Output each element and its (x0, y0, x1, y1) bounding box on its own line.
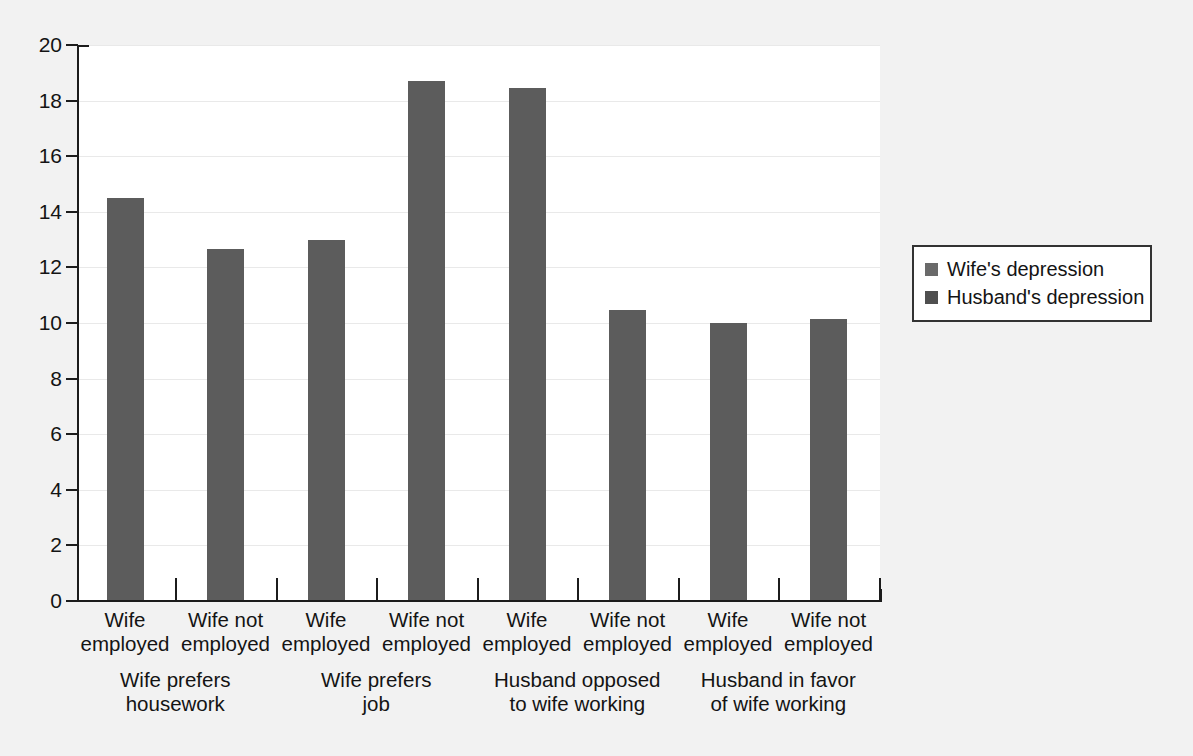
bar (609, 310, 646, 601)
y-axis-tick-label: 10 (16, 312, 62, 333)
y-axis-tick-label: 16 (16, 145, 62, 166)
legend-item: Wife's depression (925, 255, 1140, 283)
gridline (78, 379, 880, 380)
x-axis-group-label: Wife prefers job (266, 668, 486, 716)
y-axis-tick (66, 211, 78, 213)
bar (207, 249, 244, 601)
gridline (78, 490, 880, 491)
x-axis-tick (376, 578, 378, 600)
gridline (78, 267, 880, 268)
bar (408, 81, 445, 601)
gridline (78, 45, 880, 46)
x-axis-group-label: Wife prefers housework (65, 668, 285, 716)
x-axis-tick (175, 578, 177, 600)
y-axis-tick (66, 44, 78, 46)
gridline (78, 434, 880, 435)
plot-area (78, 45, 880, 601)
y-axis-tick (66, 155, 78, 157)
legend-item-label: Wife's depression (947, 259, 1104, 279)
y-axis-tick (66, 544, 78, 546)
y-axis-tick (66, 600, 78, 602)
y-axis-tick-labels: 20181614121086420 (10, 0, 62, 756)
y-axis-tick (66, 489, 78, 491)
legend-swatch-icon (925, 263, 938, 276)
y-axis-tick-label: 12 (16, 256, 62, 277)
gridline (78, 101, 880, 102)
chart-page: 20181614121086420 Wife employedWife not … (0, 0, 1193, 756)
y-axis-tick-label: 18 (16, 90, 62, 111)
y-axis-tick-label: 0 (16, 590, 62, 611)
bar (810, 319, 847, 601)
x-axis-tick (778, 578, 780, 600)
x-axis-tick (577, 578, 579, 600)
x-axis-category-label: Wife not employed (761, 608, 897, 656)
y-axis-tick-label: 4 (16, 479, 62, 500)
bar (509, 88, 546, 601)
x-axis-tick (678, 578, 680, 600)
legend-item-label: Husband's depression (947, 287, 1144, 307)
bar (107, 198, 144, 601)
x-axis-group-label: Husband in favor of wife working (668, 668, 888, 716)
gridline (78, 156, 880, 157)
y-axis-top-cap (77, 45, 89, 47)
legend-item: Husband's depression (925, 283, 1140, 311)
gridline (78, 212, 880, 213)
y-axis-tick-label: 20 (16, 34, 62, 55)
x-axis-tick (477, 578, 479, 600)
gridline (78, 545, 880, 546)
y-axis-tick-label: 8 (16, 368, 62, 389)
y-axis-tick (66, 100, 78, 102)
y-axis-tick-label: 6 (16, 423, 62, 444)
chart-legend: Wife's depression Husband's depression (912, 245, 1152, 322)
bar (710, 323, 747, 601)
y-axis-tick-label: 2 (16, 534, 62, 555)
y-axis-tick (66, 322, 78, 324)
y-axis-tick (66, 378, 78, 380)
x-axis-tick (276, 578, 278, 600)
x-axis-group-label: Husband opposed to wife working (467, 668, 687, 716)
legend-swatch-icon (925, 291, 938, 304)
x-axis-line (77, 600, 882, 602)
gridline (78, 323, 880, 324)
y-axis-tick (66, 266, 78, 268)
y-axis-tick-label: 14 (16, 201, 62, 222)
x-axis-tick (879, 578, 881, 600)
y-axis-tick (66, 433, 78, 435)
bar (308, 240, 345, 601)
